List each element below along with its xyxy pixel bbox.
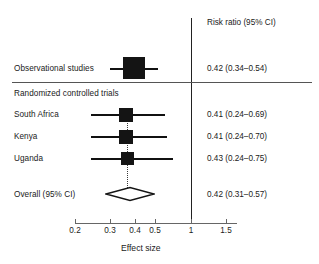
group-heading-randomized-controlled-trials: Randomized controlled trials [14,89,119,98]
reference-line-null-effect [191,18,192,223]
effect-marker-uganda [121,152,134,165]
x-tick-label-1: 1 [179,226,203,235]
ci-value-south-africa: 0.41 (0.24–0.69) [207,110,267,119]
x-axis-line [75,223,237,224]
effect-marker-observational [123,57,145,79]
row-label-kenya: Kenya [14,132,37,141]
x-tick-1-5 [226,219,227,223]
x-tick-label-1-5: 1.5 [214,226,238,235]
row-label-overall: Overall (95% CI) [14,190,75,199]
ci-value-overall: 0.42 (0.31–0.57) [207,190,267,199]
ci-value-kenya: 0.41 (0.24–0.70) [207,132,267,141]
x-axis-title: Effect size [121,243,161,253]
x-tick-1 [191,219,192,223]
row-label-south-africa: South Africa [14,110,59,119]
effect-marker-kenya [119,130,133,144]
ci-value-uganda: 0.43 (0.24–0.75) [207,154,267,163]
column-header-risk-ratio: Risk ratio (95% CI) [207,18,276,27]
diamond-shape-icon [105,186,155,202]
x-tick-0-3 [110,219,111,223]
x-tick-0-2 [75,219,76,223]
forest-plot: Risk ratio (95% CI) Observational studie… [0,0,319,264]
summary-diamond-overall [105,186,155,202]
section-divider [12,82,312,83]
x-tick-0-5 [155,219,156,223]
ci-value-observational: 0.42 (0.34–0.54) [207,64,267,73]
x-tick-label-0-5: 0.5 [143,226,167,235]
x-tick-label-0-3: 0.3 [98,226,122,235]
x-tick-label-0-2: 0.2 [63,226,87,235]
effect-marker-south-africa [119,108,133,122]
x-tick-0-4 [135,219,136,223]
row-label-uganda: Uganda [14,154,43,163]
row-label-observational-studies: Observational studies [14,64,94,73]
